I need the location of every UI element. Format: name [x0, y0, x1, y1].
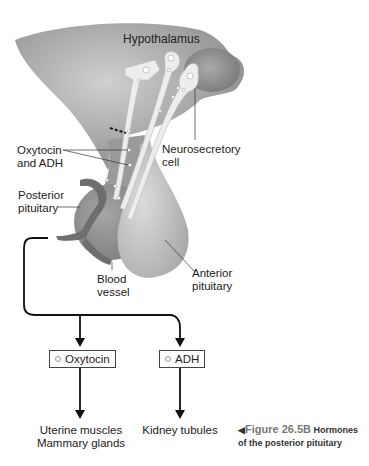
hormone-name-adh: ADH — [175, 353, 199, 365]
target-uterine-muscles: Uterine muscles — [36, 424, 126, 437]
caption-figure-number: Figure 26.5B — [245, 423, 311, 435]
figure-caption: ◀Figure 26.5B Hormones of the posterior … — [238, 423, 358, 450]
label-posterior-pituitary: Posterior pituitary — [18, 189, 64, 215]
label-anterior-pituitary: Anterior pituitary — [192, 267, 232, 293]
caption-title-line1: Hormones — [314, 425, 359, 435]
caption-arrow-icon: ◀ — [238, 425, 245, 435]
label-oxytocin-adh: Oxytocin and ADH — [17, 144, 63, 170]
label-blood-vessel: Blood vessel — [97, 273, 130, 299]
bullet-icon — [165, 356, 171, 362]
target-oxytocin: Uterine muscles Mammary glands — [36, 424, 126, 450]
caption-title-line2: of the posterior pituitary — [238, 437, 358, 450]
label-neurosecretory-line2: cell — [162, 156, 241, 169]
label-neurosecretory-cell: Neurosecretory cell — [162, 143, 241, 169]
label-blood-line2: vessel — [97, 286, 130, 299]
hormone-box-oxytocin: Oxytocin — [49, 350, 116, 368]
label-posterior-line2: pituitary — [18, 202, 64, 215]
label-anterior-line2: pituitary — [192, 280, 232, 293]
label-hypothalamus: Hypothalamus — [123, 33, 200, 46]
bullet-icon — [55, 356, 61, 362]
target-adh: Kidney tubules — [140, 424, 220, 437]
label-anterior-line1: Anterior — [192, 267, 232, 280]
hormone-box-adh: ADH — [159, 350, 205, 368]
label-oxytocin-adh-line1: Oxytocin — [17, 144, 63, 157]
label-neurosecretory-line1: Neurosecretory — [162, 143, 241, 156]
label-oxytocin-adh-line2: and ADH — [17, 157, 63, 170]
label-posterior-line1: Posterior — [18, 189, 64, 202]
pituitary-illustration — [0, 0, 369, 466]
target-mammary-glands: Mammary glands — [36, 437, 126, 450]
label-blood-line1: Blood — [97, 273, 130, 286]
hormone-name-oxytocin: Oxytocin — [65, 353, 110, 365]
target-kidney-tubules: Kidney tubules — [140, 424, 220, 437]
